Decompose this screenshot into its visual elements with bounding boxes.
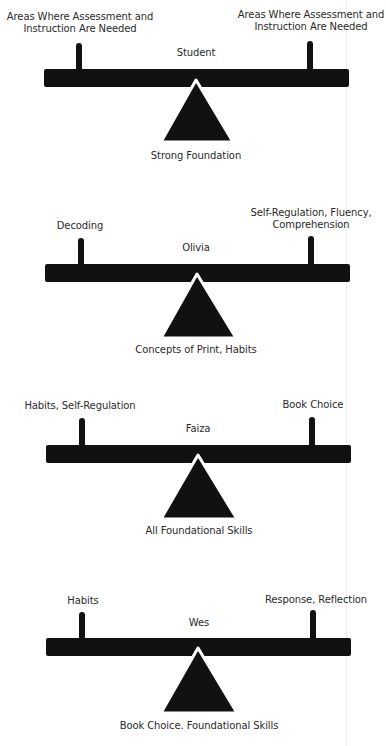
left-post [76, 43, 82, 70]
left-label: Areas Where Assessment and Instruction A… [5, 11, 155, 35]
fulcrum-triangle [155, 76, 239, 144]
fulcrum-triangle [156, 270, 240, 340]
left-post [79, 612, 85, 639]
left-label: Decoding [30, 220, 130, 232]
right-post [310, 610, 316, 639]
right-label: Book Choice [263, 399, 363, 411]
left-post [79, 418, 85, 446]
center-label: Olivia [146, 242, 246, 254]
center-label: Wes [149, 617, 249, 629]
fulcrum-triangle [157, 644, 241, 716]
left-label: Habits, Self-Regulation [15, 400, 145, 412]
left-label: Habits [53, 595, 113, 607]
fulcrum-label: Concepts of Print, Habits [116, 344, 276, 356]
center-label: Faiza [148, 423, 248, 435]
fulcrum-label: Strong Foundation [126, 150, 266, 162]
right-post [308, 236, 314, 265]
center-label: Student [146, 47, 246, 59]
left-post [78, 238, 84, 265]
seesaw-student: Areas Where Assessment and Instruction A… [0, 0, 384, 170]
right-label: Areas Where Assessment and Instruction A… [236, 9, 386, 33]
fulcrum-label: All Foundational Skills [126, 525, 272, 537]
right-label: Response, Reflection [256, 594, 376, 606]
right-post [307, 41, 313, 70]
fulcrum-triangle [157, 451, 241, 521]
right-label: Self-Regulation, Fluency, Comprehension [236, 207, 386, 231]
fulcrum-label: Book Choice. Foundational Skills [104, 720, 294, 732]
right-post [309, 417, 315, 446]
